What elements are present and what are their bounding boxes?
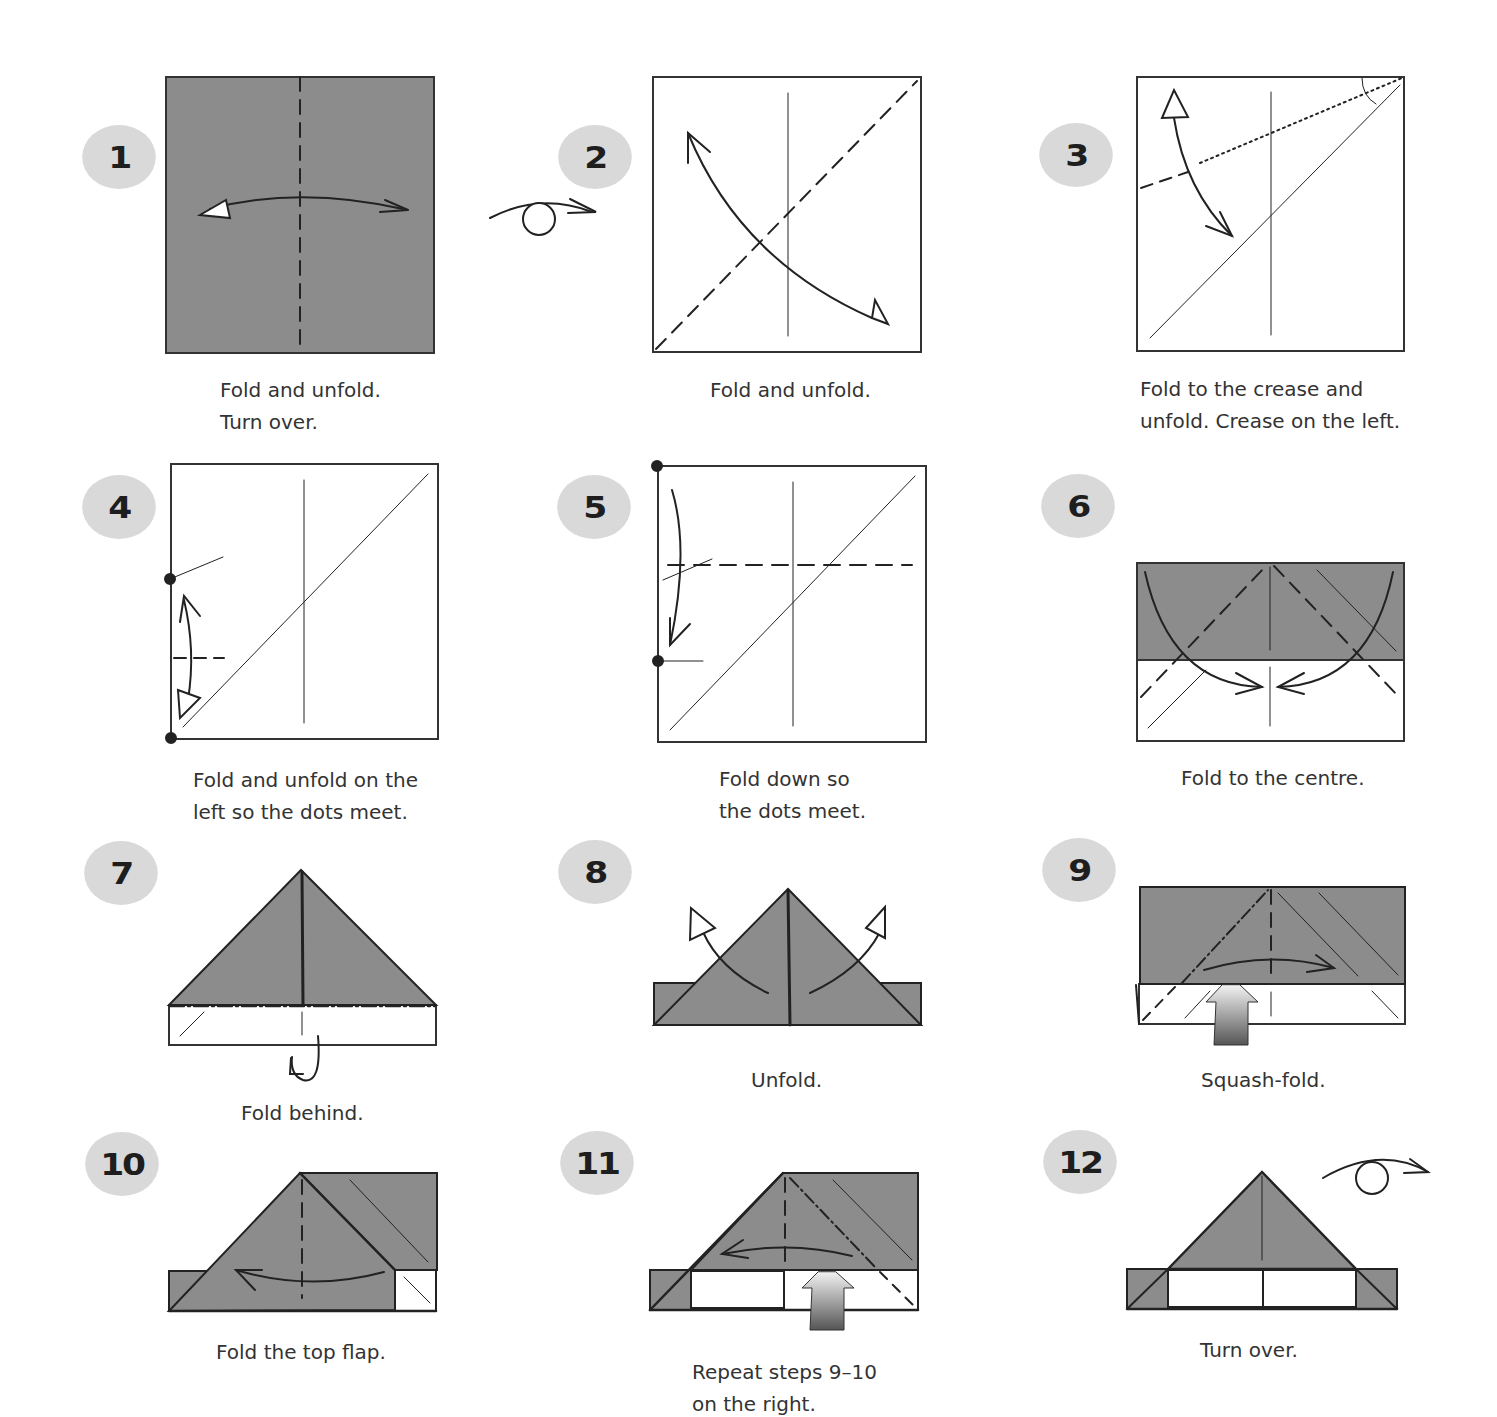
turn-over-icon [1323, 1159, 1428, 1194]
step-caption: Squash-fold. [1201, 1064, 1326, 1096]
dot-marker-icon [166, 733, 176, 743]
step-caption: Fold to the centre. [1181, 762, 1365, 794]
step-badge: 11 [560, 1131, 634, 1195]
dot-marker-icon [165, 574, 175, 584]
step-badge: 2 [558, 125, 632, 189]
dot-marker-icon [652, 461, 662, 471]
step-caption: Unfold. [751, 1064, 822, 1096]
step-badge: 9 [1042, 838, 1116, 902]
step-7-figure [169, 870, 436, 1080]
step-caption: Fold and unfold. Turn over. [220, 374, 381, 438]
step-badge: 5 [557, 475, 631, 539]
step-badge: 10 [85, 1132, 159, 1196]
step-badge: 12 [1043, 1130, 1117, 1194]
step-12-figure [1127, 1159, 1428, 1309]
step-badge: 6 [1041, 474, 1115, 538]
step-caption: Repeat steps 9–10 on the right. [692, 1356, 877, 1417]
dot-marker-icon [653, 656, 663, 666]
step-9-figure [1136, 887, 1405, 1045]
step-5-figure [652, 461, 926, 742]
step-badge: 1 [82, 125, 156, 189]
step-3-figure [1137, 77, 1404, 351]
step-4-figure [165, 464, 438, 743]
origami-diagram [0, 0, 1497, 1417]
step-caption: Turn over. [1200, 1334, 1298, 1366]
step-caption: Fold to the crease and unfold. Crease on… [1140, 373, 1400, 437]
step-badge: 8 [558, 840, 632, 904]
step-badge: 3 [1039, 123, 1113, 187]
step-caption: Fold behind. [241, 1097, 364, 1129]
step-caption: Fold down so the dots meet. [719, 763, 866, 827]
step-caption: Fold and unfold on the left so the dots … [193, 764, 418, 828]
step-badge: 7 [84, 841, 158, 905]
step-11-figure [650, 1173, 918, 1330]
step-10-figure [169, 1173, 437, 1311]
step-badge: 4 [82, 475, 156, 539]
step-1-figure [166, 77, 434, 353]
step-caption: Fold the top flap. [216, 1336, 386, 1368]
step-2-figure [653, 77, 921, 352]
step-6-figure [1137, 563, 1404, 741]
turn-over-icon [490, 199, 596, 235]
step-8-figure [654, 889, 921, 1025]
step-caption: Fold and unfold. [710, 374, 871, 406]
